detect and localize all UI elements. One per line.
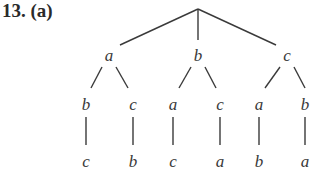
- node-level2: c: [216, 95, 224, 114]
- node-level2: b: [82, 95, 91, 114]
- node-level3: c: [82, 152, 90, 171]
- edge: [198, 9, 276, 45]
- edge: [294, 67, 305, 88]
- node-level1-b: b: [194, 46, 203, 65]
- node-level2: a: [255, 95, 264, 114]
- node-level2: b: [301, 95, 310, 114]
- edge: [91, 67, 102, 88]
- node-level3: a: [301, 152, 310, 171]
- edge: [120, 9, 198, 45]
- node-level1-c: c: [283, 46, 291, 65]
- node-level2: a: [169, 95, 178, 114]
- edge: [116, 67, 128, 88]
- edge: [265, 67, 280, 88]
- node-level1-a: a: [105, 46, 114, 65]
- node-level3: b: [255, 152, 264, 171]
- edge: [205, 67, 216, 88]
- node-level3: a: [216, 152, 225, 171]
- edge: [179, 67, 191, 88]
- node-level3: c: [169, 152, 177, 171]
- node-level3: b: [129, 152, 138, 171]
- permutation-tree: a b c b c a c a b c b c a b a: [0, 0, 314, 178]
- node-level2: c: [129, 95, 137, 114]
